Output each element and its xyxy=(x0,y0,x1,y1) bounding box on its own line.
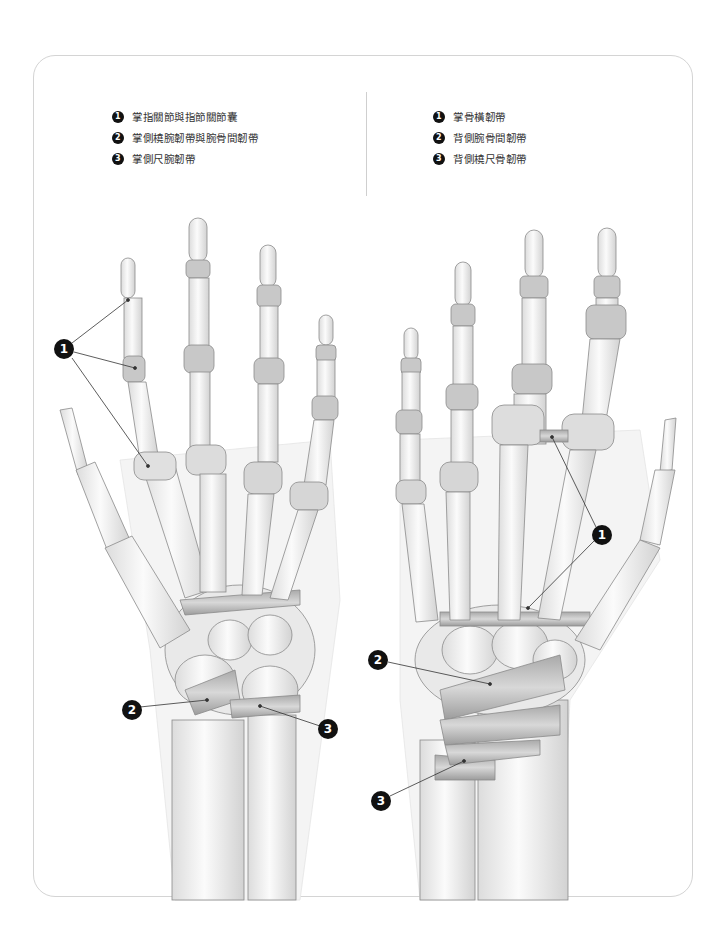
callout-dorsal-1: 1 xyxy=(592,525,612,545)
hand-skeleton-illustration xyxy=(0,0,725,939)
callout-dorsal-2: 2 xyxy=(368,650,388,670)
dorsal-hand xyxy=(396,228,676,900)
callout-palmar-2: 2 xyxy=(122,700,142,720)
callout-palmar-1: 1 xyxy=(54,339,74,359)
callout-palmar-3: 3 xyxy=(318,719,338,739)
callout-dorsal-3: 3 xyxy=(371,791,391,811)
